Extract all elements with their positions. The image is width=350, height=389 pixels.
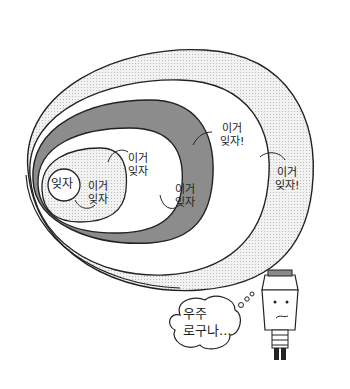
ring-1-label: 이거 잊자	[88, 180, 108, 206]
trash-bin-character	[262, 270, 298, 360]
thought-text: 우주 로구나...	[183, 305, 231, 339]
ring-5-label: 이거 잊자!	[275, 166, 299, 192]
core-label: 잊자	[51, 178, 73, 191]
ring-2-label: 이거 잊자	[128, 152, 148, 178]
ring-4-label: 이거 잊자!	[220, 122, 244, 148]
ring-3-label: 이거 잊자	[175, 183, 195, 209]
